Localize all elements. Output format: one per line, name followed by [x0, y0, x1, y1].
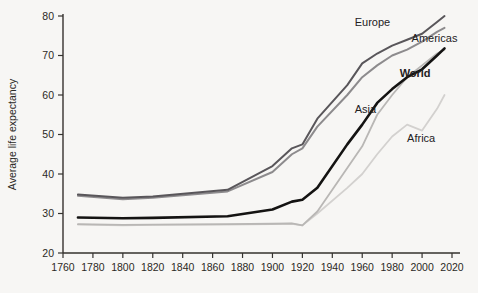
x-tick-label-1780: 1780 [81, 261, 105, 273]
x-tick-label-1760: 1760 [51, 261, 75, 273]
y-tick-label-20: 20 [42, 247, 54, 259]
y-tick-label-80: 80 [42, 10, 54, 22]
series-label-europe: Europe [355, 16, 390, 28]
chart-canvas: 2030405060708017601780180018201840186018… [0, 0, 478, 293]
x-tick-label-1800: 1800 [111, 261, 135, 273]
x-tick-label-1820: 1820 [141, 261, 165, 273]
y-tick-label-40: 40 [42, 168, 54, 180]
series-label-asia: Asia [355, 103, 377, 115]
series-line-world [78, 48, 445, 218]
y-tick-label-50: 50 [42, 128, 54, 140]
series-line-europe [78, 16, 445, 198]
y-tick-label-70: 70 [42, 49, 54, 61]
life-expectancy-chart: 2030405060708017601780180018201840186018… [0, 0, 478, 293]
y-axis-title: Average life expectancy [6, 78, 18, 190]
y-tick-label-60: 60 [42, 89, 54, 101]
x-tick-label-1900: 1900 [261, 261, 285, 273]
series-label-world: World [400, 67, 431, 79]
series-label-africa: Africa [407, 132, 436, 144]
x-tick-label-1880: 1880 [231, 261, 255, 273]
series-line-africa [78, 95, 445, 225]
x-tick-label-1920: 1920 [291, 261, 315, 273]
series-line-americas [78, 28, 445, 199]
x-tick-label-1940: 1940 [321, 261, 345, 273]
y-tick-label-30: 30 [42, 207, 54, 219]
x-tick-label-2020: 2020 [440, 261, 464, 273]
x-tick-label-2000: 2000 [410, 261, 434, 273]
x-tick-label-1860: 1860 [201, 261, 225, 273]
x-tick-label-1980: 1980 [380, 261, 404, 273]
series-label-americas: Americas [412, 32, 458, 44]
x-tick-label-1840: 1840 [171, 261, 195, 273]
x-tick-label-1960: 1960 [351, 261, 375, 273]
